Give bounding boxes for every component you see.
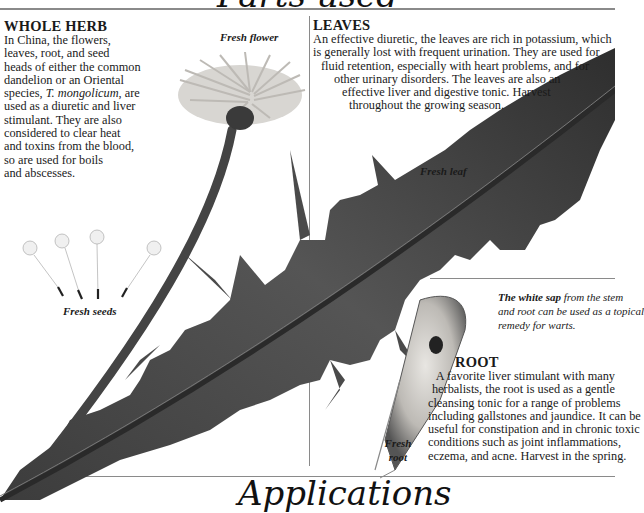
seeds xyxy=(23,230,161,299)
leaves-section: LEAVES An effective diuretic, the leaves… xyxy=(313,18,615,113)
bottom-title: Applications xyxy=(238,476,452,510)
root-heading: ROOT xyxy=(428,355,615,370)
whole-herb-section: WHOLE HERB In China, the flowers, leaves… xyxy=(4,19,214,180)
root-body: A favorite liver stimulant with many her… xyxy=(428,370,615,463)
root-section: ROOT A favorite liver stimulant with man… xyxy=(428,355,615,463)
sap-note-bold: The white sap xyxy=(498,291,561,303)
species-name: T. mongolicum xyxy=(46,86,119,100)
caption-fresh-seeds: Fresh seeds xyxy=(63,305,116,317)
caption-fresh-leaf: Fresh leaf xyxy=(420,165,467,177)
leaves-body: An effective diuretic, the leaves are ri… xyxy=(313,33,615,113)
leaves-heading: LEAVES xyxy=(313,18,615,33)
caption-fresh-flower: Fresh flower xyxy=(220,31,278,43)
sap-note: The white sap from the stem and root can… xyxy=(498,290,615,332)
whole-herb-body: In China, the flowers, leaves, root, and… xyxy=(4,34,214,180)
caption-fresh-root: Fresh root xyxy=(380,436,416,464)
whole-herb-heading: WHOLE HERB xyxy=(4,19,214,34)
